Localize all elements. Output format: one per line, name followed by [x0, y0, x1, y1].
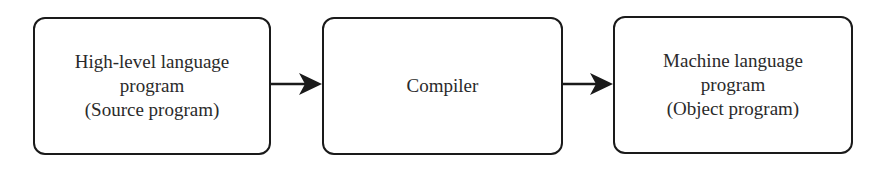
arrow-compiler-to-object [563, 73, 613, 95]
arrows-layer [0, 0, 880, 169]
arrow-source-to-compiler [271, 73, 322, 95]
